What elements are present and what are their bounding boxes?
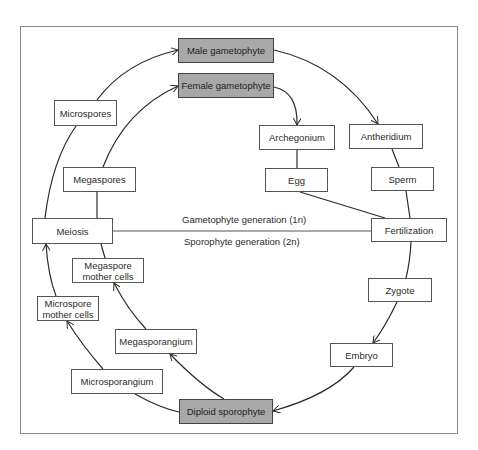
node-microspore-mother-cells: Microspore mother cells: [37, 296, 99, 321]
node-diploid-sporophyte: Diploid sporophyte: [179, 399, 273, 424]
node-label: Male gametophyte: [187, 45, 265, 56]
node-label: Microspores: [60, 108, 112, 119]
sporophyte-generation-label: Sporophyte generation (2n): [184, 236, 300, 247]
node-egg: Egg: [265, 168, 328, 192]
node-microsporangium: Microsporangium: [71, 369, 163, 394]
node-label: Embryo: [345, 350, 378, 361]
node-label: Fertilization: [385, 225, 434, 236]
node-label: Megasporangium: [119, 336, 192, 347]
node-megaspores: Megaspores: [63, 167, 136, 192]
node-microspores: Microspores: [54, 100, 117, 126]
node-sperm: Sperm: [371, 167, 434, 191]
node-antheridium: Antheridium: [349, 124, 423, 149]
node-female-gametophyte: Female gametophyte: [178, 73, 274, 98]
node-label: Sperm: [389, 174, 417, 185]
node-male-gametophyte: Male gametophyte: [178, 38, 274, 63]
node-fertilization: Fertilization: [371, 218, 447, 242]
node-label: Female gametophyte: [181, 80, 270, 91]
node-label-line2: mother cells: [82, 271, 133, 282]
node-label-line1: Microspore: [45, 298, 92, 309]
node-label: Zygote: [385, 285, 414, 296]
node-label: Egg: [288, 175, 305, 186]
node-zygote: Zygote: [368, 278, 432, 302]
node-label: Megaspores: [73, 174, 125, 185]
node-megaspore-mother-cells: Megaspore mother cells: [72, 258, 144, 283]
gametophyte-generation-label: Gametophyte generation (1n): [182, 214, 306, 225]
node-label: Microsporangium: [81, 376, 154, 387]
node-archegonium: Archegonium: [259, 125, 335, 150]
node-embryo: Embryo: [330, 343, 393, 367]
node-label-line1: Megaspore: [84, 260, 132, 271]
node-label: Meiosis: [56, 226, 88, 237]
node-label: Archegonium: [269, 132, 325, 143]
node-meiosis: Meiosis: [32, 218, 113, 244]
node-label-line2: mother cells: [42, 309, 93, 320]
node-label: Diploid sporophyte: [187, 406, 266, 417]
node-megasporangium: Megasporangium: [115, 329, 197, 354]
node-label: Antheridium: [361, 131, 412, 142]
